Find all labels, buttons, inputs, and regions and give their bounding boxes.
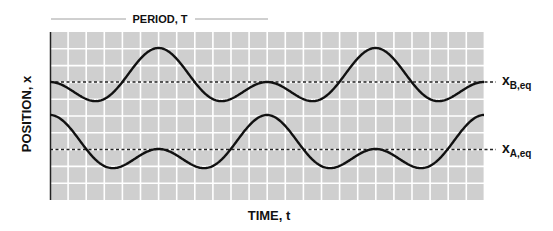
eq-label-B-main: x [502, 72, 510, 88]
x-axis-label: TIME, t [248, 208, 291, 223]
period-annotation: PERIOD, T [51, 13, 268, 25]
y-axis-label: POSITION, x [19, 75, 34, 152]
eq-label-B: xB,eq [502, 72, 531, 91]
eq-label-A-main: x [502, 140, 510, 156]
eq-label-A-sub: A,eq [510, 148, 532, 159]
eq-label-A: xA,eq [502, 140, 531, 159]
oscillation-figure: PERIOD, T xB,eq xA,eq POSITION, x TIME, … [0, 0, 553, 231]
period-label: PERIOD, T [132, 13, 187, 25]
eq-label-B-sub: B,eq [510, 80, 532, 91]
